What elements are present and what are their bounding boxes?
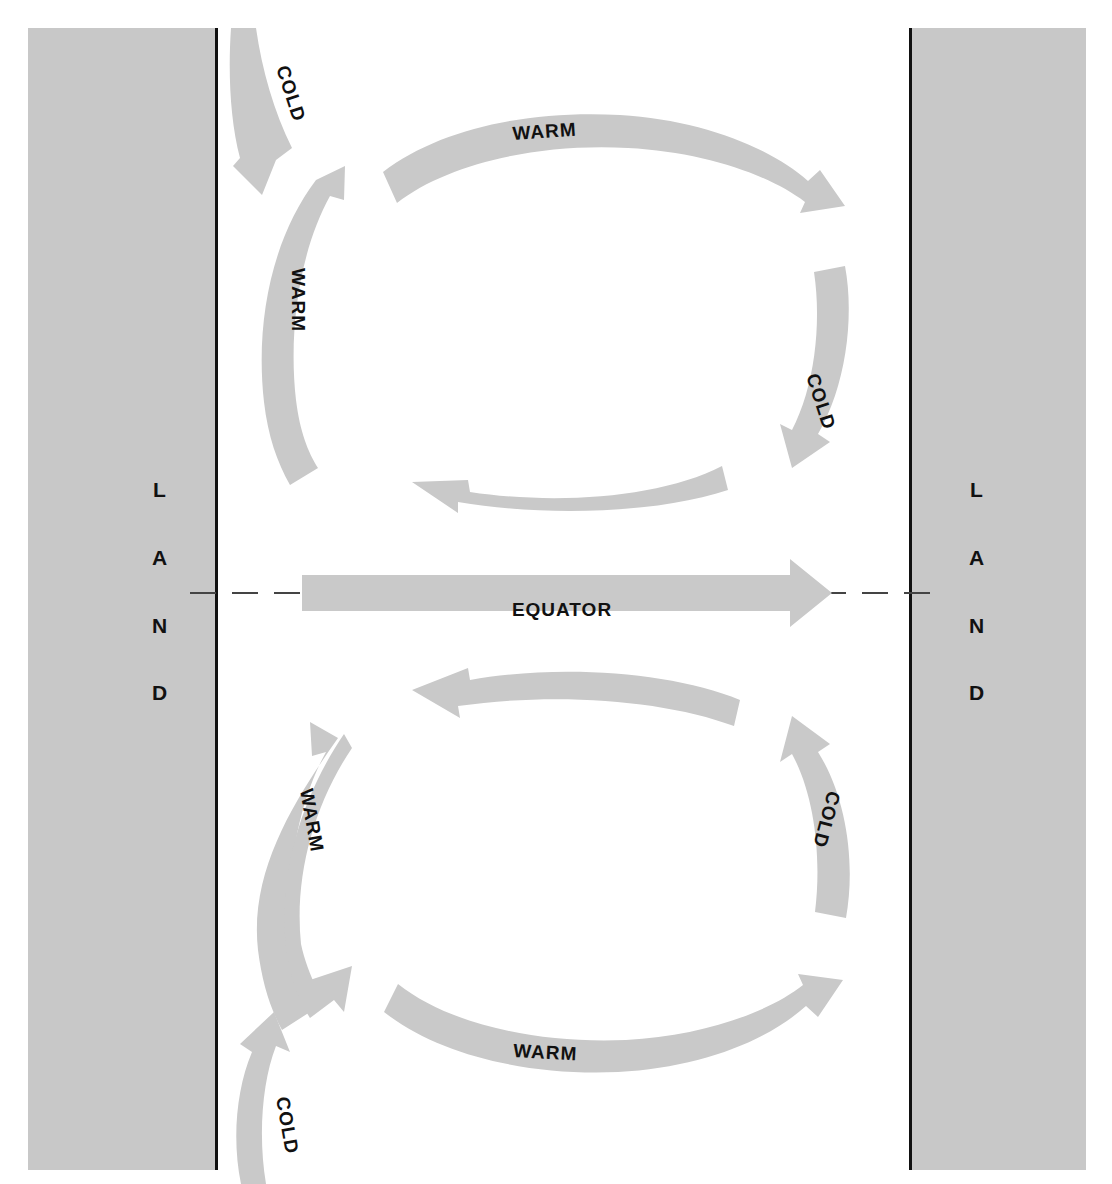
land-right-letter-d: D (969, 681, 985, 704)
equator-group: EQUATOR (190, 559, 940, 627)
arrow-north-cold-east (780, 266, 849, 468)
land-left-letter-n: N (152, 614, 168, 637)
arrow-south-return-north (412, 668, 740, 726)
land-right-letter-n: N (969, 614, 985, 637)
land-left-letter-a: A (152, 546, 168, 569)
land-left-letter-d: D (152, 681, 168, 704)
label-equator: EQUATOR (512, 599, 612, 620)
label-north-warm-north: WARM (512, 119, 577, 144)
arrow-north-warm-north (383, 114, 845, 213)
arrow-north-return-south (412, 466, 728, 513)
land-right-letter-l: L (970, 478, 984, 501)
land-right (911, 28, 1087, 1170)
land-left (28, 28, 217, 1170)
ocean-circulation-diagram: L A N D L A N D COLD WARM WARM COLD EQUA… (0, 0, 1112, 1184)
land-right-letter-a: A (969, 546, 985, 569)
label-south-warm-south: WARM (513, 1040, 578, 1064)
arrow-north-cold-inflow (230, 28, 292, 195)
label-north-warm-west: WARM (288, 268, 309, 332)
label-north-cold-inflow: COLD (272, 63, 310, 124)
land-right-fill (912, 28, 1086, 1170)
land-left-fill (28, 28, 216, 1170)
diagram-canvas: L A N D L A N D COLD WARM WARM COLD EQUA… (0, 0, 1112, 1184)
label-south-cold-outflow: COLD (272, 1095, 303, 1156)
arrow-south-warm-south (384, 974, 843, 1073)
arrow-south-warm-west-body (284, 734, 352, 1018)
land-left-letter-l: L (153, 478, 167, 501)
